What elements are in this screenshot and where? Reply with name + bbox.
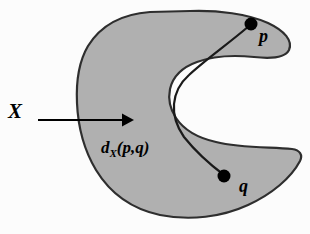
- figure-canvas: X p q dX(p,q): [0, 0, 310, 234]
- point-p-marker: [245, 18, 258, 31]
- distance-base: d: [101, 138, 110, 157]
- point-q-marker: [218, 170, 231, 183]
- distance-label: dX(p,q): [101, 139, 149, 159]
- distance-args: (p,q): [117, 138, 150, 157]
- set-label-x: X: [8, 101, 22, 122]
- distance-subscript: X: [110, 147, 117, 159]
- point-label-p: p: [259, 27, 268, 45]
- point-label-q: q: [239, 177, 248, 195]
